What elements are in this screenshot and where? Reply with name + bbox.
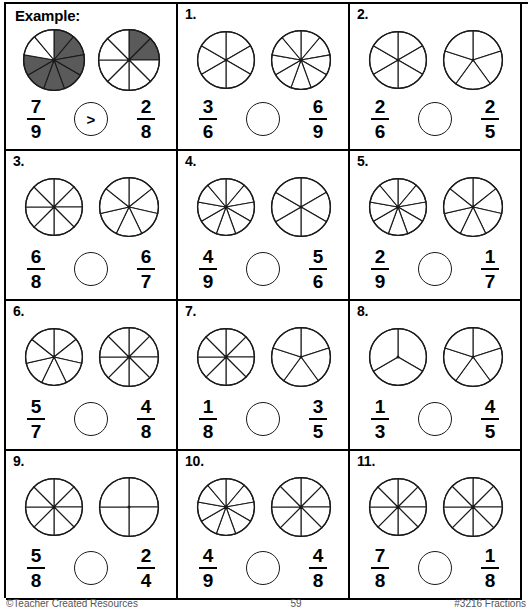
- right-numerator: 3: [313, 397, 324, 417]
- right-fraction: 28: [130, 97, 162, 141]
- fraction-bar: [27, 418, 45, 420]
- comparison-row: 6867: [6, 247, 176, 291]
- comparison-answer-circle[interactable]: [74, 551, 108, 585]
- right-numerator: 6: [313, 97, 324, 117]
- right-pie-chart: [437, 171, 509, 243]
- right-numerator: 5: [313, 247, 324, 267]
- problem-cell-3: 3.6867: [6, 151, 178, 301]
- problem-number: 4.: [185, 154, 196, 169]
- right-numerator: 2: [141, 546, 152, 566]
- left-denominator: 3: [375, 422, 386, 441]
- problem-cell-4: 4.4956: [178, 151, 350, 301]
- comparison-answer-circle[interactable]: [418, 252, 452, 286]
- right-pie-chart: [93, 171, 165, 243]
- fraction-bar: [27, 118, 45, 120]
- right-numerator: 4: [313, 546, 324, 566]
- left-fraction: 58: [20, 546, 52, 590]
- comparison-answer-circle[interactable]: [246, 252, 280, 286]
- left-denominator: 6: [203, 122, 214, 141]
- problem-cell-6: 6.5748: [6, 301, 178, 451]
- comparison-answer-circle[interactable]: [246, 102, 280, 136]
- right-denominator: 8: [141, 422, 152, 441]
- right-denominator: 4: [141, 571, 152, 590]
- right-pie-chart: [437, 24, 509, 96]
- fraction-bar: [137, 418, 155, 420]
- comparison-row: 1835: [178, 397, 348, 441]
- pie-pair: [350, 24, 520, 96]
- left-denominator: 8: [375, 571, 386, 590]
- left-numerator: 2: [375, 247, 386, 267]
- fraction-bar: [309, 268, 327, 270]
- left-fraction: 29: [364, 247, 396, 291]
- right-numerator: 2: [141, 97, 152, 117]
- fraction-bar: [27, 567, 45, 569]
- fraction-bar: [371, 118, 389, 120]
- left-fraction: 26: [364, 97, 396, 141]
- right-pie-chart: [93, 24, 165, 96]
- right-denominator: 5: [485, 422, 496, 441]
- right-fraction: 48: [302, 546, 334, 590]
- left-pie-chart: [362, 171, 434, 243]
- left-fraction: 78: [364, 546, 396, 590]
- left-denominator: 8: [31, 571, 42, 590]
- fraction-bar: [27, 268, 45, 270]
- right-pie-chart: [265, 171, 337, 243]
- comparison-row: 4948: [178, 546, 348, 590]
- comparison-answer-circle[interactable]: [418, 402, 452, 436]
- left-fraction: 49: [192, 247, 224, 291]
- problem-cell-5: 5.2917: [350, 151, 522, 301]
- comparison-symbol[interactable]: >: [74, 102, 108, 136]
- fraction-bar: [199, 268, 217, 270]
- left-fraction: 49: [192, 546, 224, 590]
- comparison-answer-circle[interactable]: [74, 252, 108, 286]
- comparison-answer-circle[interactable]: [74, 402, 108, 436]
- left-pie-chart: [362, 321, 434, 393]
- pie-pair: [350, 321, 520, 393]
- problem-number: 6.: [13, 304, 24, 319]
- left-numerator: 1: [203, 397, 214, 417]
- example-cell: Example:79>28: [6, 4, 178, 151]
- right-denominator: 5: [313, 422, 324, 441]
- comparison-answer-circle[interactable]: [246, 551, 280, 585]
- fraction-bar: [481, 418, 499, 420]
- footer-product-code: #3216 Fractions: [454, 598, 526, 609]
- left-numerator: 6: [31, 247, 42, 267]
- right-fraction: 67: [130, 247, 162, 291]
- problem-cell-11: 11.7818: [350, 451, 522, 600]
- left-numerator: 7: [31, 97, 42, 117]
- left-denominator: 9: [375, 272, 386, 291]
- right-numerator: 6: [141, 247, 152, 267]
- right-denominator: 6: [313, 272, 324, 291]
- left-fraction: 68: [20, 247, 52, 291]
- comparison-answer-circle[interactable]: [418, 551, 452, 585]
- left-pie-chart: [18, 321, 90, 393]
- left-pie-chart: [18, 471, 90, 543]
- right-pie-chart: [265, 321, 337, 393]
- right-pie-chart: [93, 321, 165, 393]
- comparison-answer-circle[interactable]: [418, 102, 452, 136]
- fraction-bar: [309, 418, 327, 420]
- right-pie-chart: [93, 471, 165, 543]
- left-denominator: 9: [203, 272, 214, 291]
- left-numerator: 7: [375, 546, 386, 566]
- left-denominator: 8: [31, 272, 42, 291]
- comparison-answer-circle[interactable]: [246, 402, 280, 436]
- left-numerator: 1: [375, 397, 386, 417]
- left-fraction: 79: [20, 97, 52, 141]
- right-pie-chart: [265, 471, 337, 543]
- problem-number: 8.: [357, 304, 368, 319]
- right-fraction: 48: [130, 397, 162, 441]
- left-pie-chart: [190, 24, 262, 96]
- fraction-bar: [137, 567, 155, 569]
- right-denominator: 7: [485, 272, 496, 291]
- left-fraction: 36: [192, 97, 224, 141]
- fraction-bar: [137, 268, 155, 270]
- pie-pair: [6, 471, 176, 543]
- pie-pair: [6, 24, 176, 96]
- left-pie-chart: [18, 24, 90, 96]
- pie-pair: [350, 471, 520, 543]
- worksheet-page: Example:79>281.36692.26253.68674.49565.2…: [0, 0, 532, 611]
- pie-pair: [178, 24, 348, 96]
- left-fraction: 18: [192, 397, 224, 441]
- fraction-bar: [371, 418, 389, 420]
